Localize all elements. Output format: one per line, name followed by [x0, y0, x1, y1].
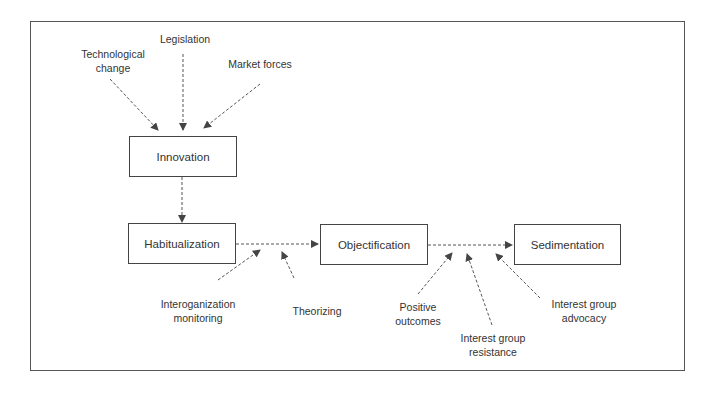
- label-line: advocacy: [552, 311, 617, 325]
- objectification-box: Objectification: [320, 224, 428, 265]
- label-legislation: Legislation: [160, 32, 210, 46]
- label-line: Technological: [81, 47, 145, 61]
- label-theorizing: Theorizing: [292, 304, 341, 318]
- label-technological-change: Technological change: [81, 47, 145, 75]
- label-positive-outcomes: Positive outcomes: [395, 300, 441, 328]
- label-interorganization-monitoring: Interoganization monitoring: [161, 297, 236, 325]
- label-line: outcomes: [395, 314, 441, 328]
- label-interest-group-resistance: Interest group resistance: [461, 331, 526, 359]
- label-line: Positive: [395, 300, 441, 314]
- label-interest-group-advocacy: Interest group advocacy: [552, 297, 617, 325]
- label-line: Interest group: [461, 331, 526, 345]
- habitualization-box: Habitualization: [128, 223, 236, 264]
- innovation-box: Innovation: [129, 136, 237, 177]
- label-line: Interest group: [552, 297, 617, 311]
- label-line: change: [81, 61, 145, 75]
- label-line: Interoganization: [161, 297, 236, 311]
- label-market-forces: Market forces: [228, 57, 292, 71]
- label-line: resistance: [461, 345, 526, 359]
- label-line: monitoring: [161, 311, 236, 325]
- sedimentation-box: Sedimentation: [514, 224, 621, 265]
